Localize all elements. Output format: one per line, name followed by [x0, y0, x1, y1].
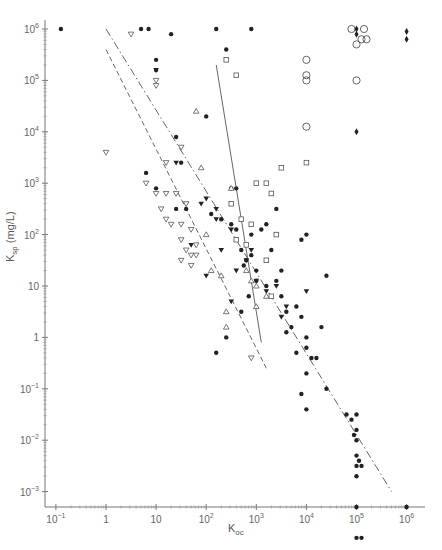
- regression-lines: [106, 29, 392, 492]
- data-point: [178, 222, 184, 227]
- data-point: [304, 345, 308, 349]
- data-point: [264, 222, 268, 226]
- data-point: [354, 412, 358, 416]
- tick-label: 106: [399, 512, 414, 525]
- data-point: [193, 253, 199, 258]
- data-point: [248, 356, 254, 361]
- data-point: [103, 150, 109, 155]
- data-point: [353, 77, 360, 84]
- data-point: [259, 227, 263, 231]
- data-point: [184, 207, 188, 211]
- data-point: [304, 289, 310, 294]
- data-point: [354, 474, 358, 478]
- tick-label: 106: [24, 22, 39, 35]
- tick-label: 10: [151, 514, 163, 525]
- tick-label: 10−1: [20, 382, 39, 395]
- data-point: [203, 232, 209, 237]
- data-point: [128, 32, 134, 37]
- data-point: [154, 58, 158, 62]
- data-point: [354, 505, 358, 509]
- data-point: [360, 25, 367, 32]
- data-point: [153, 78, 159, 83]
- data-point: [354, 438, 358, 442]
- data-point: [274, 207, 278, 211]
- data-point: [269, 191, 274, 196]
- data-point: [234, 186, 238, 190]
- data-point: [254, 304, 260, 309]
- data-point: [168, 222, 174, 227]
- data-point: [183, 202, 189, 207]
- data-point: [249, 253, 253, 257]
- data-point: [188, 263, 194, 268]
- data-point: [348, 25, 355, 32]
- data-point: [354, 536, 358, 540]
- data-point: [274, 232, 279, 237]
- tick-label: 102: [199, 512, 214, 525]
- data-point: [274, 284, 280, 289]
- data-point: [249, 222, 254, 227]
- data-point: [248, 278, 254, 283]
- tick-label: 105: [24, 73, 39, 86]
- tick-label: 10−1: [46, 512, 65, 525]
- data-point: [234, 227, 238, 231]
- data-point: [158, 207, 164, 212]
- regression-line: [106, 29, 392, 492]
- data-point: [169, 32, 173, 36]
- data-point: [243, 268, 249, 273]
- tick-label: 105: [349, 512, 364, 525]
- data-point: [304, 407, 308, 411]
- data-point: [303, 77, 310, 84]
- data-point: [163, 217, 169, 222]
- data-point: [233, 269, 239, 274]
- data-point: [249, 27, 253, 31]
- data-point: [354, 428, 358, 432]
- data-point: [178, 258, 184, 263]
- data-point: [214, 27, 218, 31]
- data-point: [274, 279, 278, 283]
- data-point: [173, 161, 179, 166]
- data-point: [174, 207, 178, 211]
- data-point: [178, 145, 184, 150]
- data-point: [153, 191, 159, 196]
- data-point: [359, 536, 363, 540]
- data-point: [229, 222, 233, 226]
- tick-label: 104: [299, 512, 314, 525]
- data-point: [188, 253, 194, 258]
- data-point: [218, 248, 224, 253]
- x-axis-label: Koc: [228, 522, 244, 537]
- data-point: [224, 335, 228, 339]
- data-point: [353, 41, 360, 48]
- axes: 10−310−210−111010210310410510610−1110102…: [20, 20, 425, 525]
- data-point: [209, 212, 213, 216]
- tick-label: 10: [28, 281, 40, 292]
- data-point: [204, 114, 208, 118]
- data-point: [198, 202, 204, 207]
- tick-label: 102: [24, 228, 39, 241]
- regression-line: [216, 65, 261, 343]
- data-point: [299, 392, 303, 396]
- y-axis-label: Ksp (mg/L): [4, 211, 19, 262]
- data-point: [234, 73, 239, 78]
- data-point: [269, 294, 274, 299]
- data-point: [219, 217, 223, 221]
- data-point: [249, 232, 253, 236]
- data-point: [193, 108, 199, 113]
- data-point: [208, 268, 214, 273]
- data-point: [405, 28, 409, 35]
- data-point: [214, 351, 218, 355]
- data-point: [304, 371, 308, 375]
- data-point: [264, 181, 269, 186]
- tick-label: 103: [249, 512, 264, 525]
- data-point: [303, 56, 310, 63]
- data-point: [279, 315, 285, 320]
- data-point: [223, 309, 229, 314]
- data-point: [324, 387, 328, 391]
- data-point: [404, 505, 408, 509]
- data-point: [359, 464, 363, 468]
- data-point: [254, 181, 259, 186]
- data-point: [248, 248, 254, 253]
- tick-label: 10−3: [20, 485, 39, 498]
- data-point: [279, 268, 283, 272]
- data-point: [203, 274, 209, 279]
- data-point: [284, 305, 290, 310]
